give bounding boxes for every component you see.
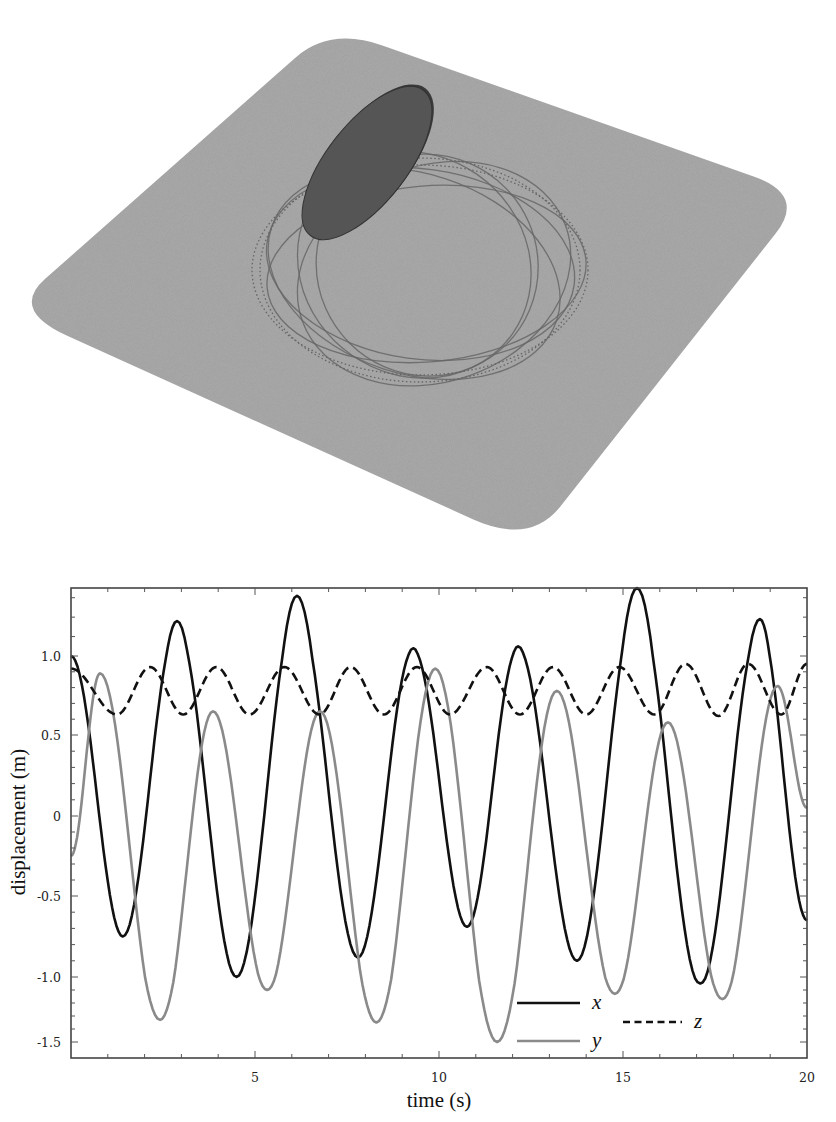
y-tick-label: 1.0 — [41, 649, 61, 664]
chart-series — [71, 588, 807, 1042]
y-tick-label: -0.5 — [37, 889, 61, 904]
x-tick-label: 20 — [799, 1070, 815, 1085]
legend-label-x: x — [591, 990, 602, 1014]
y-tick-label: 0.5 — [41, 728, 61, 743]
y-tick-label: -1.0 — [37, 970, 61, 985]
axis-ticks — [71, 588, 807, 1058]
displacement-chart: 51015201.00.50-0.5-1.0-1.5 time (s) disp… — [0, 560, 836, 1122]
series-y-line — [71, 669, 807, 1042]
x-tick-label: 15 — [615, 1070, 631, 1085]
x-tick-label: 5 — [251, 1070, 259, 1085]
y-tick-label: -1.5 — [37, 1035, 61, 1050]
x-axis-label: time (s) — [407, 1088, 472, 1112]
y-tick-label: 0 — [53, 809, 61, 824]
3d-scene — [0, 0, 836, 560]
legend-label-y: y — [590, 1028, 602, 1052]
chart-legend: xyz — [517, 990, 702, 1052]
legend-label-z: z — [693, 1009, 702, 1033]
x-tick-label: 10 — [431, 1070, 447, 1085]
y-axis-label: displacement (m) — [6, 749, 30, 895]
plot-frame — [71, 588, 807, 1058]
